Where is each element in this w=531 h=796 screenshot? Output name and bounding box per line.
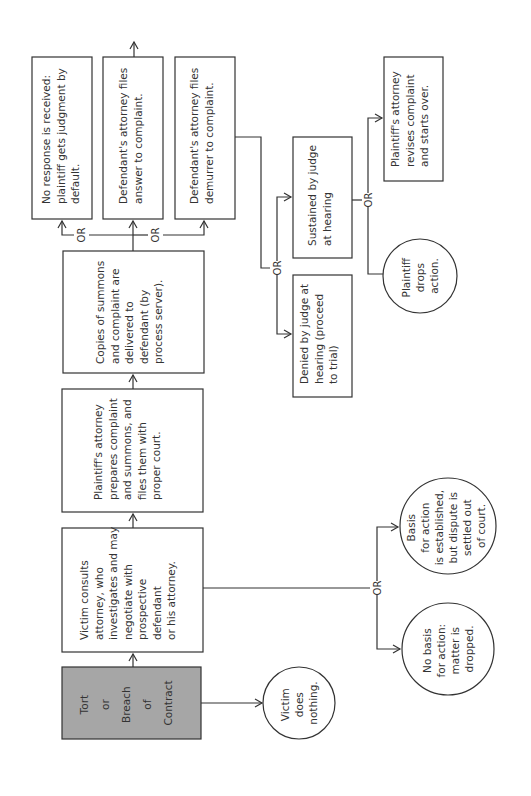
node-line: or (99, 699, 111, 710)
node-plaintiff-prepares-complaint: Plaintiff's attorney prepares complaint … (62, 389, 203, 512)
node-defendant-files-demurrer: Defendant's attorney files demurrer to c… (175, 57, 235, 219)
or-label-served-right: OR (150, 228, 161, 243)
connector-or-sustained (277, 197, 291, 261)
or-label-served-left: OR (76, 228, 87, 243)
node-default-judgment: No response is received: plaintiff gets … (32, 57, 92, 219)
node-settled-out-of-court: Basis for action is established, but dis… (400, 478, 496, 574)
connector-or-revises (368, 118, 382, 193)
node-line: of (141, 699, 153, 709)
node-line: Tort (78, 695, 90, 716)
node-victim-consults-attorney: Victim consults attorney, who investigat… (62, 523, 203, 652)
connector-or-denied (277, 275, 291, 334)
node-victim-does-nothing: Victim does nothing. (263, 667, 335, 739)
connector-demurrer-or (235, 137, 270, 268)
node-defendant-files-answer: Defendant's attorney files answer to com… (103, 57, 163, 219)
node-no-basis-for-action: No basis for action: matter is dropped. (402, 603, 494, 695)
node-plaintiff-drops-action: Plaintiff drops action. (383, 239, 457, 313)
node-denied-by-judge: Denied by judge at hearing (proceed to t… (293, 275, 352, 397)
node-sustained-by-judge: Sustained by judge at hearing (293, 137, 352, 258)
node-tort-or-breach: Tort or Breach of Contract (62, 667, 201, 739)
legal-process-flowchart: OR OR OR OR OR Tort or Breach of Contrac… (0, 0, 531, 796)
connector-or-demurrer (163, 221, 204, 235)
node-line: Breach (120, 686, 132, 723)
connector-or-settled (377, 527, 398, 581)
svg-text:Plaintiff drops: Plaintiff drops action. (400, 255, 440, 298)
node-summons-delivered: Copies of summons and complaint are deli… (63, 251, 204, 373)
connector-or-drops (368, 207, 383, 274)
or-label-hearing: OR (272, 261, 283, 276)
connector-or-nobasis (377, 595, 400, 649)
node-plaintiff-revises-complaint: Plaintiff's attorney revises complaint a… (384, 57, 443, 181)
or-label-consult: OR (372, 581, 383, 596)
connector-or-default (62, 221, 74, 235)
or-label-sustained: OR (363, 193, 374, 208)
node-line: Contract (162, 680, 174, 725)
